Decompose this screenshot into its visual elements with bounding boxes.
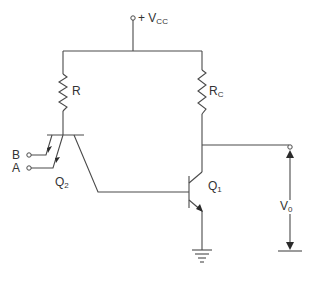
ground-icon bbox=[192, 250, 212, 262]
vcc-label: + VCC bbox=[138, 12, 168, 26]
vcc-terminal bbox=[131, 16, 135, 51]
output-terminal[interactable] bbox=[288, 145, 292, 149]
input-a-label: A bbox=[12, 162, 20, 174]
transistor-q1 bbox=[189, 172, 203, 250]
emitter-arrow-a bbox=[55, 157, 60, 163]
q1-emitter-arrow bbox=[196, 204, 203, 212]
input-terminal-a[interactable] bbox=[27, 166, 31, 170]
resistor-r-label: R bbox=[72, 85, 81, 97]
emitter-arrow-b bbox=[47, 146, 52, 153]
input-terminal-b[interactable] bbox=[27, 153, 31, 157]
resistor-r bbox=[59, 51, 67, 135]
output-voltage-label: V0 bbox=[280, 200, 292, 214]
resistor-rc-label: RC bbox=[209, 85, 223, 99]
circuit-schematic bbox=[0, 0, 315, 281]
circuit-diagram: + VCC R RC B A Q2 Q1 V0 bbox=[0, 0, 315, 281]
transistor-q1-label: Q1 bbox=[208, 180, 222, 194]
transistor-q2-label: Q2 bbox=[55, 176, 69, 190]
input-b-label: B bbox=[12, 149, 20, 161]
resistor-rc bbox=[198, 51, 206, 172]
